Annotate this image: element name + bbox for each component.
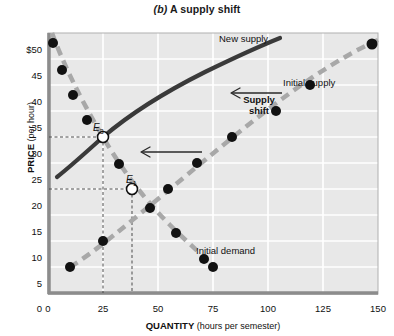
e1-letter: E xyxy=(126,174,133,185)
supply-shift-line1: Supply xyxy=(243,94,275,105)
supply-shift-line2: shift xyxy=(249,105,269,116)
initial-supply-label: Initial supply xyxy=(283,77,335,88)
demand-point xyxy=(82,115,92,125)
demand-point xyxy=(57,65,67,75)
e1-subscript: 1 xyxy=(133,180,137,187)
supply-point xyxy=(367,39,378,50)
supply-shift-label: Supply shift xyxy=(231,95,287,116)
demand-point xyxy=(145,203,155,213)
supply-point xyxy=(163,184,173,194)
e1-label: E1 xyxy=(126,174,137,187)
demand-point xyxy=(114,159,124,169)
supply-point xyxy=(65,262,75,272)
supply-point xyxy=(98,236,108,246)
supply-shift-figure: (b) A supply shift $50 45 40 35 30 25 20… xyxy=(0,0,394,336)
demand-point xyxy=(171,228,181,238)
new-supply-label: New supply xyxy=(219,33,268,44)
initial-demand-label: Initial demand xyxy=(196,245,255,256)
supply-point xyxy=(227,132,237,142)
demand-point xyxy=(208,262,218,272)
e3-subscript: 3 xyxy=(100,128,104,135)
e3-letter: E xyxy=(93,122,100,133)
e3-label: E3 xyxy=(93,122,104,135)
demand-point xyxy=(48,38,58,48)
supply-point xyxy=(192,158,202,168)
plot-area xyxy=(0,0,394,336)
demand-point xyxy=(68,90,78,100)
